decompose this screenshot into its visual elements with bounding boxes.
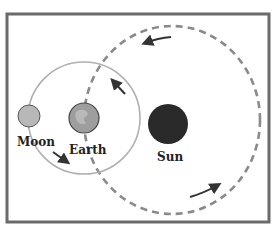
sun-icon [148,104,188,144]
moon-icon [18,105,40,127]
diagram-frame [7,14,269,222]
moon-label: Moon [17,135,55,149]
sun-label: Sun [157,150,183,164]
orbit-diagram: Moon Earth Sun [0,0,274,232]
earth-label: Earth [69,143,107,157]
